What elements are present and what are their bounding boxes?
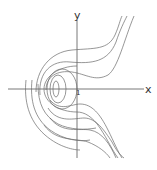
x-axis-label: x xyxy=(145,83,152,96)
phase-portrait-diagram: x y 1 xyxy=(0,0,157,170)
y-axis-label: y xyxy=(74,9,81,22)
